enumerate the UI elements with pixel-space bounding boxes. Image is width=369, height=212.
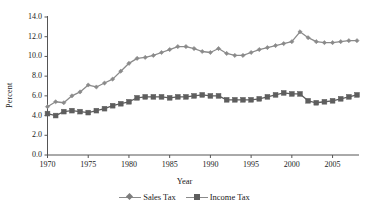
marker-square-icon bbox=[143, 94, 148, 99]
marker-diamond-icon bbox=[347, 39, 351, 43]
y-axis-tick-label: 4.0 bbox=[12, 112, 42, 120]
marker-square-icon bbox=[208, 93, 213, 98]
y-axis-tick-label: 10.0 bbox=[12, 52, 42, 60]
legend-marker-square-icon bbox=[186, 193, 208, 202]
marker-square-icon bbox=[314, 100, 319, 105]
x-axis-tick-label: 1995 bbox=[234, 161, 268, 169]
x-axis-tick-label: 2000 bbox=[275, 161, 309, 169]
x-axis-tick-label: 1970 bbox=[31, 161, 65, 169]
marker-diamond-icon bbox=[143, 55, 147, 59]
x-axis-tick-label: 1980 bbox=[112, 161, 146, 169]
marker-square-icon bbox=[184, 94, 189, 99]
marker-diamond-icon bbox=[322, 41, 326, 45]
axes bbox=[45, 16, 360, 158]
marker-square-icon bbox=[192, 93, 197, 98]
marker-diamond-icon bbox=[200, 49, 204, 53]
marker-square-icon bbox=[338, 96, 343, 101]
marker-square-icon bbox=[135, 95, 140, 100]
marker-diamond-icon bbox=[151, 53, 155, 57]
marker-diamond-icon bbox=[241, 53, 245, 57]
legend-item-income-tax: Income Tax bbox=[186, 192, 250, 202]
marker-square-icon bbox=[281, 91, 286, 96]
y-axis-tick-label: 8.0 bbox=[12, 72, 42, 80]
marker-diamond-icon bbox=[176, 44, 180, 48]
series-income-tax bbox=[45, 91, 359, 118]
marker-diamond-icon bbox=[94, 85, 98, 89]
marker-diamond-icon bbox=[159, 50, 163, 54]
marker-square-icon bbox=[216, 93, 221, 98]
marker-square-icon bbox=[306, 98, 311, 103]
marker-square-icon bbox=[355, 92, 360, 97]
marker-square-icon bbox=[232, 97, 237, 102]
marker-square-icon bbox=[167, 95, 172, 100]
marker-diamond-icon bbox=[257, 47, 261, 51]
marker-diamond-icon bbox=[168, 47, 172, 51]
marker-square-icon bbox=[102, 106, 107, 111]
marker-diamond-icon bbox=[249, 50, 253, 54]
marker-square-icon bbox=[61, 109, 66, 114]
marker-diamond-icon bbox=[314, 40, 318, 44]
x-axis-tick-label: 1985 bbox=[153, 161, 187, 169]
legend-item-sales-tax: Sales Tax bbox=[119, 192, 176, 202]
data-series-group bbox=[45, 30, 359, 118]
marker-square-icon bbox=[224, 97, 229, 102]
chart-container: Percent 14.012.010.08.06.04.02.00.0 1970… bbox=[0, 0, 369, 212]
marker-square-icon bbox=[330, 98, 335, 103]
marker-diamond-icon bbox=[330, 41, 334, 45]
marker-diamond-icon bbox=[184, 44, 188, 48]
marker-square-icon bbox=[346, 94, 351, 99]
marker-diamond-icon bbox=[273, 43, 277, 47]
legend-marker-diamond-icon bbox=[119, 193, 141, 202]
x-axis-tick-label: 2005 bbox=[316, 161, 350, 169]
marker-square-icon bbox=[45, 111, 50, 116]
marker-diamond-icon bbox=[233, 53, 237, 57]
chart-legend: Sales Tax Income Tax bbox=[0, 192, 369, 202]
y-axis-tick-label: 2.0 bbox=[12, 131, 42, 139]
y-axis-tick-label: 12.0 bbox=[12, 33, 42, 41]
y-axis-tick-label: 0.0 bbox=[12, 151, 42, 159]
marker-square-icon bbox=[70, 108, 75, 113]
marker-square-icon bbox=[322, 99, 327, 104]
legend-label-income-tax: Income Tax bbox=[210, 192, 250, 202]
x-axis-tick-label: 1990 bbox=[193, 161, 227, 169]
marker-diamond-icon bbox=[208, 50, 212, 54]
marker-square-icon bbox=[110, 103, 115, 108]
marker-square-icon bbox=[273, 92, 278, 97]
marker-square-icon bbox=[289, 91, 294, 96]
legend-label-sales-tax: Sales Tax bbox=[143, 192, 176, 202]
marker-square-icon bbox=[127, 99, 132, 104]
marker-square-icon bbox=[53, 113, 58, 118]
marker-square-icon bbox=[118, 101, 123, 106]
y-axis-tick-label: 14.0 bbox=[12, 13, 42, 21]
x-axis-title: Year bbox=[0, 176, 369, 186]
marker-square-icon bbox=[249, 97, 254, 102]
marker-square-icon bbox=[298, 91, 303, 96]
marker-diamond-icon bbox=[192, 46, 196, 50]
marker-square-icon bbox=[78, 109, 83, 114]
marker-diamond-icon bbox=[339, 40, 343, 44]
x-axis-tick-label: 1975 bbox=[71, 161, 105, 169]
marker-square-icon bbox=[257, 96, 262, 101]
marker-diamond-icon bbox=[265, 45, 269, 49]
marker-square-icon bbox=[175, 94, 180, 99]
marker-square-icon bbox=[94, 108, 99, 113]
marker-square-icon bbox=[159, 94, 164, 99]
marker-square-icon bbox=[241, 97, 246, 102]
y-axis-tick-label: 6.0 bbox=[12, 92, 42, 100]
marker-square-icon bbox=[151, 94, 156, 99]
marker-diamond-icon bbox=[282, 42, 286, 46]
marker-square-icon bbox=[200, 92, 205, 97]
marker-diamond-icon bbox=[102, 81, 106, 85]
marker-square-icon bbox=[86, 110, 91, 115]
marker-diamond-icon bbox=[355, 39, 359, 43]
marker-square-icon bbox=[265, 94, 270, 99]
